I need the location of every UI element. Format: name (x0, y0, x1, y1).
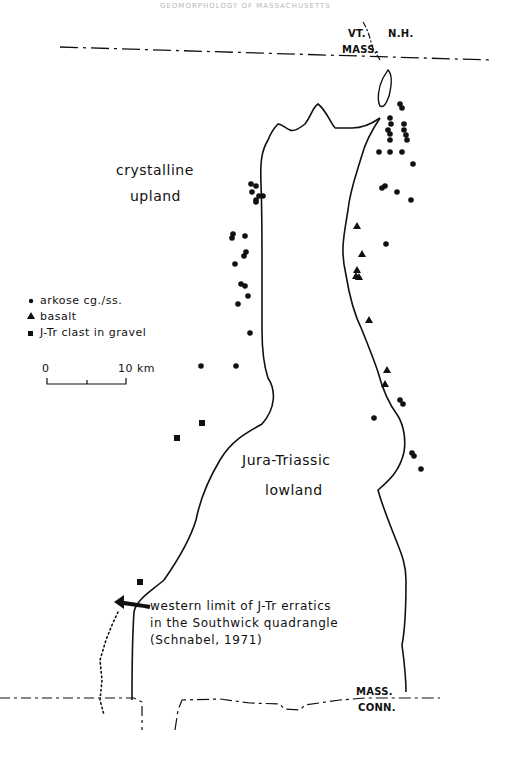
legend-label-clast: J-Tr clast in gravel (40, 326, 146, 339)
arkose-site-marker (403, 132, 409, 138)
state-line-north (60, 47, 490, 60)
state-line-south (0, 698, 142, 730)
scale-end: 10 km (118, 362, 155, 375)
arkose-site-marker (253, 199, 259, 205)
arkose-site-marker (248, 181, 254, 187)
basalt-site-marker (353, 266, 361, 273)
arkose-site-marker (388, 121, 394, 127)
label-mass-south: MASS. (356, 686, 393, 697)
region-label-crystalline: crystalline (116, 162, 194, 178)
basalt-site-marker (383, 366, 391, 373)
region-label-upland: upland (130, 188, 181, 204)
scale-bar (47, 378, 126, 384)
arkose-site-marker (387, 137, 393, 143)
arkose-site-marker (418, 466, 424, 472)
annotation-line-2: in the Southwick quadrangle (150, 615, 338, 632)
basalt-site-marker (365, 316, 373, 323)
arkose-site-marker (404, 137, 410, 143)
erratics-limit-line (100, 612, 118, 715)
arkose-site-marker (382, 183, 388, 189)
label-mass-north: MASS. (342, 44, 379, 55)
arkose-site-marker (249, 189, 255, 195)
arkose-site-marker (401, 127, 407, 133)
label-nh: N.H. (388, 28, 414, 39)
lowland-boundary (343, 118, 406, 692)
arkose-site-marker (232, 261, 238, 267)
arkose-site-marker (371, 415, 377, 421)
basalt-site-marker (353, 222, 361, 229)
arkose-site-marker (387, 149, 393, 155)
arkose-site-marker (400, 401, 406, 407)
arkose-site-marker (247, 330, 253, 336)
arkose-site-marker (399, 105, 405, 111)
region-label-jura-triassic: Jura-Triassic (242, 452, 331, 468)
legend-triangle-icon (27, 312, 35, 319)
arkose-site-marker (411, 453, 417, 459)
lowland-boundary-top (335, 118, 380, 128)
clast-site-marker (199, 420, 205, 426)
arkose-site-marker (245, 293, 251, 299)
arkose-site-marker (399, 149, 405, 155)
arkose-site-marker (387, 115, 393, 121)
arrow-head (114, 595, 124, 609)
page-header: GEOMORPHOLOGY OF MASSACHUSETTS (160, 2, 331, 10)
legend-circle-icon (29, 299, 33, 303)
arkose-site-marker (260, 193, 266, 199)
arkose-site-marker (242, 283, 248, 289)
arkose-site-marker (387, 131, 393, 137)
state-line-south-2 (175, 698, 440, 730)
arkose-site-marker (410, 161, 416, 167)
region-label-lowland: lowland (265, 482, 323, 498)
clast-site-marker (174, 435, 180, 441)
basalt-site-marker (358, 250, 366, 257)
arkose-site-marker (401, 121, 407, 127)
arkose-site-marker (253, 183, 259, 189)
legend-label-arkose: arkose cg./ss. (40, 294, 122, 307)
clast-site-marker (137, 579, 143, 585)
annotation-line-3: (Schnabel, 1971) (150, 632, 262, 649)
label-vt: VT. (348, 28, 366, 39)
label-conn: CONN. (358, 702, 396, 713)
arkose-site-marker (383, 241, 389, 247)
arkose-site-marker (242, 233, 248, 239)
arkose-site-marker (376, 149, 382, 155)
arkose-site-marker (408, 197, 414, 203)
annotation-line-1: western limit of J-Tr erratics (150, 598, 331, 615)
scale-start: 0 (42, 362, 50, 375)
arkose-site-marker (394, 189, 400, 195)
arkose-site-marker (198, 363, 204, 369)
arkose-site-marker (241, 253, 247, 259)
arkose-site-marker (235, 301, 241, 307)
arkose-site-marker (233, 363, 239, 369)
connecticut-river-island (378, 70, 391, 107)
legend-label-basalt: basalt (40, 310, 77, 323)
legend-square-icon (28, 331, 33, 336)
arkose-site-marker (229, 235, 235, 241)
